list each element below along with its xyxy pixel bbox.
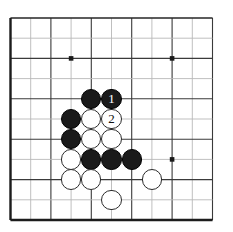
black-stone-move-1[interactable]: 1 (101, 89, 121, 109)
star-point-upper-right-icon (170, 56, 175, 61)
star-point-lower-right-icon (170, 157, 175, 162)
black-stone-c4r7[interactable] (81, 149, 101, 169)
star-point-upper-left-icon (69, 56, 74, 61)
white-stone-c5r6[interactable] (101, 129, 121, 149)
black-stone-c5r7[interactable] (101, 149, 121, 169)
white-stone-move-2[interactable]: 2 (101, 109, 121, 129)
move-number-label: 1 (108, 92, 115, 105)
white-stone-c5r9[interactable] (101, 190, 121, 210)
white-stone-c3r8[interactable] (61, 169, 81, 189)
move-number-label: 2 (108, 112, 115, 125)
white-stone-c7r8[interactable] (142, 169, 162, 189)
go-board-diagram: 12 (0, 0, 233, 232)
white-stone-c3r7[interactable] (61, 149, 81, 169)
black-stone-c6r7[interactable] (122, 149, 142, 169)
